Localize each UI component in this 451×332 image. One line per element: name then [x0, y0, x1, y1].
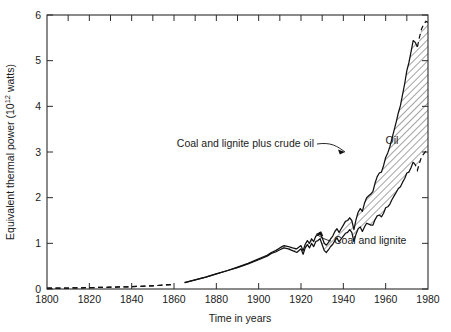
- y-axis-title: Equivalent thermal power (1012 watts): [3, 64, 16, 240]
- y-tick-label: 3: [35, 146, 41, 158]
- y-tick-label: 2: [35, 191, 41, 203]
- x-tick-label: 1980: [416, 293, 440, 305]
- x-tick-label: 1840: [120, 293, 144, 305]
- y-tick-label: 5: [35, 54, 41, 66]
- x-tick-label: 1820: [78, 293, 102, 305]
- chart-canvas: 0123456 18001820184018601880190019201940…: [0, 0, 451, 332]
- x-tick-label: 1920: [289, 293, 313, 305]
- annotation-band-label: Oil: [386, 134, 399, 146]
- x-tick-label: 1800: [35, 293, 59, 305]
- y-tick-label: 6: [35, 9, 41, 21]
- y-tick-label: 4: [35, 100, 41, 112]
- annotation-lower-curve-label: Coal and lignite: [334, 234, 407, 246]
- x-tick-label: 1900: [247, 293, 271, 305]
- x-tick-label: 1880: [205, 293, 229, 305]
- annotation-upper-curve-label: Coal and lignite plus crude oil: [177, 137, 314, 149]
- y-axis-title-group: Equivalent thermal power (1012 watts): [3, 64, 16, 240]
- x-tick-label: 1960: [374, 293, 398, 305]
- figure-container: 0123456 18001820184018601880190019201940…: [0, 0, 451, 332]
- x-axis-title: Time in years: [209, 312, 272, 324]
- y-tick-label: 1: [35, 237, 41, 249]
- x-tick-label: 1860: [162, 293, 186, 305]
- x-tick-label: 1940: [332, 293, 356, 305]
